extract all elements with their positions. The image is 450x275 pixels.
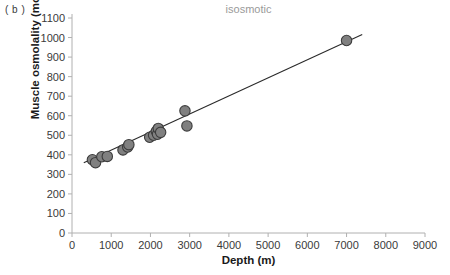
y-tick-label: 300 (47, 168, 65, 180)
y-tick-label: 1000 (41, 32, 65, 44)
x-tick-label: 8000 (374, 239, 398, 251)
data-point (124, 139, 134, 149)
x-tick-label: 2000 (138, 239, 162, 251)
x-axis-ticks: 0100020003000400050006000700080009000 (69, 233, 437, 251)
y-tick-label: 700 (47, 90, 65, 102)
data-point (180, 106, 190, 116)
y-axis-ticks: 010020030040050060070080090010001100 (41, 12, 72, 239)
y-tick-label: 1100 (41, 12, 65, 24)
x-tick-label: 1000 (99, 239, 123, 251)
y-tick-label: 400 (47, 149, 65, 161)
y-tick-label: 100 (47, 207, 65, 219)
x-tick-label: 3000 (177, 239, 201, 251)
data-points (87, 35, 352, 168)
data-point (155, 127, 165, 137)
y-tick-label: 600 (47, 110, 65, 122)
y-tick-label: 800 (47, 71, 65, 83)
data-point (341, 35, 351, 45)
scatter-plot: 010020030040050060070080090010001100 010… (0, 0, 450, 275)
x-tick-label: 7000 (334, 239, 358, 251)
x-tick-label: 9000 (413, 239, 437, 251)
y-tick-label: 900 (47, 51, 65, 63)
data-point (102, 151, 112, 161)
figure-panel-b: ( b ) isosmotic Muscle osmolality (mosmo… (0, 0, 450, 275)
y-tick-label: 200 (47, 188, 65, 200)
x-tick-label: 5000 (256, 239, 280, 251)
x-tick-label: 6000 (295, 239, 319, 251)
x-tick-label: 0 (69, 239, 75, 251)
x-tick-label: 4000 (217, 239, 241, 251)
y-tick-label: 500 (47, 129, 65, 141)
y-tick-label: 0 (59, 227, 65, 239)
data-point (182, 121, 192, 131)
